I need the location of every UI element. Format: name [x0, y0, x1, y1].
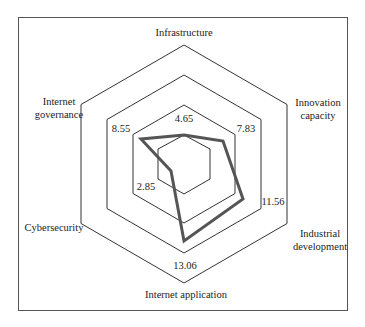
axis-label-industrial-line1: Industrial	[300, 228, 340, 239]
grid-ring-outer	[81, 45, 287, 283]
value-label-innovation: 7.83	[237, 123, 255, 134]
radar-chart: Infrastructure Innovation capacity Indus…	[0, 0, 365, 327]
axis-label-innovation-line1: Innovation	[295, 97, 341, 108]
axis-label-innovation-line2: capacity	[301, 110, 337, 121]
axis-label-cybersecurity: Cybersecurity	[25, 222, 85, 233]
grid-ring-3	[107, 75, 261, 253]
axis-label-governance-line1: Internet	[43, 96, 76, 107]
axis-label-infrastructure: Infrastructure	[155, 27, 212, 38]
data-series-polygon	[141, 135, 243, 241]
value-label-infrastructure: 4.65	[175, 113, 193, 124]
value-label-governance: 8.55	[112, 123, 130, 134]
axis-label-governance-line2: governance	[35, 109, 84, 120]
value-label-industrial: 11.56	[261, 196, 284, 207]
axis-label-industrial-line2: development	[293, 241, 347, 252]
value-label-internet-application: 13.06	[173, 260, 197, 271]
value-label-cybersecurity: 2.85	[137, 181, 155, 192]
axis-label-internet-application: Internet application	[145, 289, 228, 300]
